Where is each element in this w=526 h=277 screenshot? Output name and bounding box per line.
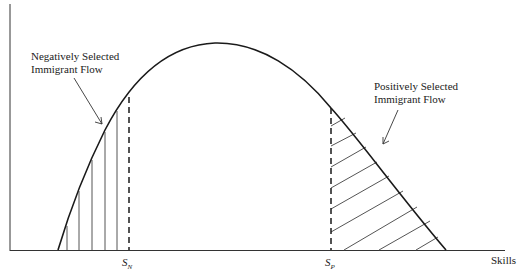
negative-annotation-line2: Immigrant Flow bbox=[31, 63, 119, 76]
positive-annotation-line2: Immigrant Flow bbox=[374, 93, 458, 106]
sn-label: SN bbox=[122, 256, 132, 274]
negative-arrow-icon bbox=[74, 78, 102, 124]
positive-arrow-icon bbox=[383, 110, 398, 144]
positive-selection-hatching bbox=[331, 118, 438, 250]
negative-annotation-line1: Negatively Selected bbox=[31, 50, 119, 63]
sp-label: SP bbox=[325, 256, 335, 274]
positive-annotation-label: Positively Selected Immigrant Flow bbox=[374, 80, 458, 106]
distribution-diagram bbox=[0, 0, 526, 277]
positive-annotation-line1: Positively Selected bbox=[374, 80, 458, 93]
x-axis-label: Skills bbox=[491, 254, 516, 267]
negative-selection-hatching bbox=[67, 111, 117, 250]
negative-annotation-label: Negatively Selected Immigrant Flow bbox=[31, 50, 119, 76]
